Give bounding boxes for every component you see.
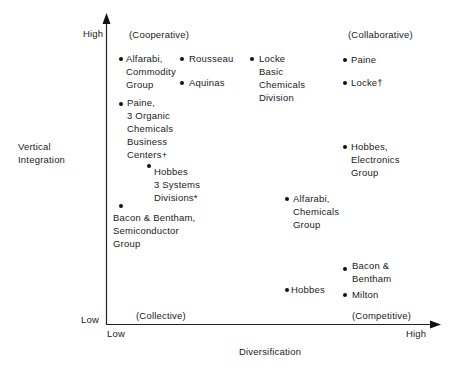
point-marker-icon [119, 57, 123, 61]
point-label: Hobbes [291, 283, 325, 296]
y-axis-low-label: Low [81, 313, 99, 326]
point-label: Paine [351, 53, 376, 66]
quadrant-competitive: (Competitive) [352, 309, 411, 322]
point-marker-icon [250, 57, 254, 61]
point-marker-icon [180, 57, 184, 61]
point-marker-icon [119, 102, 123, 106]
x-axis-low-label: Low [107, 327, 125, 340]
x-axis-title: Diversification [239, 345, 301, 358]
point-label: Locke Basic Chemicals Division [259, 52, 305, 104]
y-axis-high-label: High [83, 27, 103, 40]
quadrant-cooperative: (Cooperative) [129, 28, 189, 41]
point-marker-icon [343, 267, 347, 271]
y-axis-arrow-icon [103, 13, 111, 24]
point-label: Hobbes 3 Systems Divisions* [154, 165, 200, 204]
point-label: Alfarabi, Chemicals Group [293, 192, 339, 231]
point-label: Rousseau [189, 52, 233, 65]
x-axis-arrow-icon [430, 321, 441, 329]
point-label: Paine, 3 Organic Chemicals Business Cent… [127, 96, 173, 161]
point-marker-icon [147, 164, 151, 168]
point-marker-icon [119, 204, 123, 208]
point-marker-icon [285, 197, 289, 201]
quadrant-collective: (Collective) [136, 309, 186, 322]
point-marker-icon [343, 293, 347, 297]
point-marker-icon [343, 81, 347, 85]
point-marker-icon [343, 145, 347, 149]
point-label: Milton [352, 288, 379, 301]
point-marker-icon [180, 81, 184, 85]
point-label: Aquinas [189, 76, 225, 89]
point-label: Bacon & Bentham, Semiconductor Group [113, 211, 195, 250]
y-axis-title: Vertical Integration [18, 140, 65, 166]
point-marker-icon [285, 288, 289, 292]
point-label: Hobbes, Electronics Group [351, 140, 400, 179]
point-label: Bacon & Bentham [352, 259, 391, 285]
x-axis-high-label: High [406, 327, 426, 340]
point-label: Alfarabi, Commodity Group [126, 52, 176, 91]
point-label: Locke† [351, 76, 383, 89]
point-marker-icon [343, 58, 347, 62]
quadrant-collaborative: (Collaborative) [348, 28, 413, 41]
